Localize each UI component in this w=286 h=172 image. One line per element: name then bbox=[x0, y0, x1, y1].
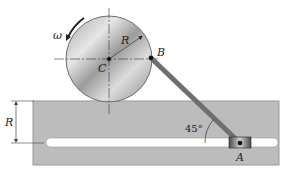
mechanism-diagram: R C R ω B 45° A bbox=[0, 0, 286, 172]
disk: C R bbox=[54, 8, 158, 116]
label-center: C bbox=[98, 62, 107, 75]
pin-a bbox=[238, 141, 243, 146]
label-omega: ω bbox=[53, 29, 62, 42]
center-point bbox=[107, 57, 111, 61]
label-angle: 45° bbox=[185, 123, 203, 134]
label-radius: R bbox=[120, 34, 129, 47]
label-r-offset: R bbox=[4, 116, 13, 129]
pin-b bbox=[149, 56, 154, 61]
label-point-b: B bbox=[156, 46, 165, 59]
label-point-a: A bbox=[235, 151, 244, 164]
